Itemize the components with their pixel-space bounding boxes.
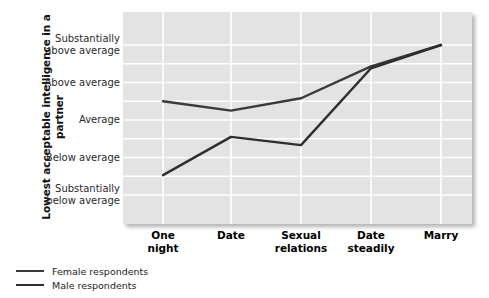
y-tick-label-0: Substantiallyabove average <box>8 33 120 57</box>
chart-legend: Female respondentsMale respondents <box>16 264 246 292</box>
x-axis-tick-labels: OnenightDateSexualrelationsDatesteadilyM… <box>123 229 472 263</box>
x-tick-label-0-line-1: night <box>118 242 208 255</box>
y-axis-tick-labels: Substantiallyabove averageAbove averageA… <box>8 0 120 232</box>
x-tick-label-3-line-1: steadily <box>326 242 416 255</box>
y-tick-label-2-line-0: Average <box>8 114 120 126</box>
y-tick-label-2: Average <box>8 114 120 126</box>
legend-item-0[interactable]: Female respondents <box>16 264 246 278</box>
y-tick-label-4-line-0: Substantially <box>8 183 120 195</box>
y-tick-label-3: Below average <box>8 152 120 164</box>
y-tick-label-0-line-1: above average <box>8 45 120 57</box>
y-tick-label-4-line-1: below average <box>8 195 120 207</box>
vertical-gridlines <box>163 12 441 224</box>
y-tick-label-0-line-0: Substantially <box>8 33 120 45</box>
plot-svg <box>123 12 472 224</box>
chart-figure: Lowest acceptable intelligence in a part… <box>0 0 489 298</box>
legend-item-1[interactable]: Male respondents <box>16 278 246 292</box>
x-tick-label-4-line-0: Marry <box>396 229 486 242</box>
plot-area <box>123 12 472 224</box>
x-tick-label-4: Marry <box>396 229 486 242</box>
legend-swatch-line-icon-0 <box>16 270 44 272</box>
y-tick-label-1-line-0: Above average <box>8 77 120 89</box>
y-tick-label-3-line-0: Below average <box>8 152 120 164</box>
horizontal-gridlines <box>123 45 472 195</box>
y-tick-label-4: Substantiallybelow average <box>8 183 120 207</box>
legend-label-0: Female respondents <box>52 266 148 277</box>
legend-swatch-line-icon-1 <box>16 284 44 286</box>
legend-label-1: Male respondents <box>52 280 136 291</box>
y-tick-label-1: Above average <box>8 77 120 89</box>
